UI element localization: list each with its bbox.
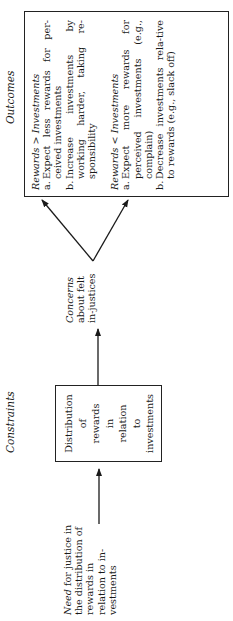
- equity-theory-diagram: Constraints Outcomes Need for justice in…: [0, 0, 233, 621]
- outcome-group-title: Rewards > Investments: [30, 20, 41, 190]
- distribution-box: Distribution of rewards in relation to i…: [55, 385, 162, 462]
- outcome-item: a. Expect less rewards for per-ceived in…: [41, 20, 63, 190]
- distribution-line: in: [103, 386, 117, 461]
- outcomes-box: Rewards > Investments a. Expect less rew…: [24, 11, 229, 197]
- distribution-line: Distribution: [62, 386, 76, 461]
- outcome-group-title: Rewards < Investments: [109, 20, 120, 190]
- distribution-line: relation: [116, 386, 130, 461]
- distribution-line: of: [76, 386, 90, 461]
- outcomes-heading: Outcomes: [4, 54, 16, 124]
- distribution-line: to: [130, 386, 144, 461]
- arrow-concerns-to-outcome-group2: [93, 200, 128, 261]
- need-label: Need: [62, 589, 73, 615]
- arrow-concerns-to-outcome-group1: [42, 200, 93, 261]
- concerns-description: about felt in-justices: [75, 263, 97, 323]
- concerns-text: Concerns about felt in-justices: [64, 263, 98, 323]
- distribution-line: investments: [143, 386, 157, 461]
- constraints-heading: Constraints: [4, 393, 16, 453]
- outcome-group-rewards-less: Rewards < Investments a. Expect more rew…: [109, 20, 176, 190]
- outcome-item: b. Increase investments by working harde…: [64, 20, 98, 190]
- need-for-justice-text: Need for justice in the distribution of …: [62, 523, 118, 615]
- distribution-line: rewards: [89, 386, 103, 461]
- outcome-item: b. Decrease investments rela-tive to rew…: [154, 20, 176, 190]
- outcome-group-rewards-greater: Rewards > Investments a. Expect less rew…: [30, 20, 97, 190]
- outcome-item: a. Expect more rewards for perceived inv…: [120, 20, 154, 190]
- concerns-label: Concerns: [64, 263, 75, 323]
